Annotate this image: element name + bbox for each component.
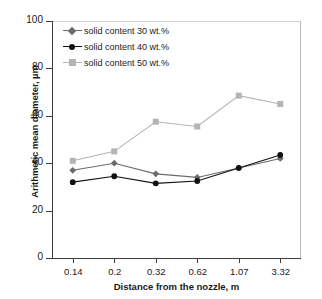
chart-legend: solid content 30 wt.%solid content 40 wt…: [63, 25, 169, 68]
x-tick: 1.07: [239, 258, 240, 263]
chart-figure: Arithmetic mean diameter, µm 02040608010…: [0, 0, 322, 299]
legend-circle-icon: [63, 41, 82, 52]
legend-label: solid content 30 wt.%: [84, 26, 169, 36]
x-tick-label: 0.62: [189, 266, 208, 277]
y-tick: 80: [46, 68, 52, 69]
y-tick-label: 20: [32, 204, 43, 215]
y-tick-label: 100: [26, 14, 43, 25]
y-tick: 60: [46, 116, 52, 117]
legend-label: solid content 50 wt.%: [84, 58, 169, 68]
legend-diamond-icon: [63, 25, 82, 36]
y-tick: 20: [46, 211, 52, 212]
legend-square-icon: [63, 57, 82, 68]
y-axis-line: [52, 21, 53, 259]
x-tick-label: 0.2: [108, 266, 121, 277]
legend-item: solid content 40 wt.%: [63, 41, 169, 52]
x-tick-label: 3.32: [272, 266, 291, 277]
y-tick-label: 80: [32, 61, 43, 72]
y-tick-label: 0: [37, 251, 43, 262]
legend-item: solid content 50 wt.%: [63, 57, 169, 68]
x-axis-title: Distance from the nozzle, m: [52, 281, 301, 292]
y-tick: 40: [46, 163, 52, 164]
x-tick-label: 0.32: [147, 266, 166, 277]
x-axis-line: [52, 258, 301, 259]
y-tick-label: 60: [32, 109, 43, 120]
legend-label: solid content 40 wt.%: [84, 42, 169, 52]
y-tick: 0: [46, 258, 52, 259]
y-tick-label: 40: [32, 156, 43, 167]
x-tick: 0.32: [156, 258, 157, 263]
legend-item: solid content 30 wt.%: [63, 25, 169, 36]
x-tick: 0.14: [73, 258, 74, 263]
x-tick-label: 0.14: [64, 266, 83, 277]
x-tick: 3.32: [280, 258, 281, 263]
x-tick: 0.2: [114, 258, 115, 263]
x-tick: 0.62: [197, 258, 198, 263]
y-tick: 100: [46, 21, 52, 22]
x-tick-label: 1.07: [230, 266, 249, 277]
